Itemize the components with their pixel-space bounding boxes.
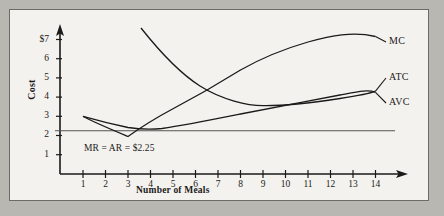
figure-panel: Cost Number of Meals $7 6 5 4 3 2 1 1 2 … <box>9 9 429 201</box>
x-tick-label-5: 5 <box>165 179 181 189</box>
y-tick-label-1: 1 <box>27 149 49 159</box>
x-tick-label-12: 12 <box>323 179 339 189</box>
page-background: Cost Number of Meals $7 6 5 4 3 2 1 1 2 … <box>0 0 444 216</box>
atc-curve <box>141 28 376 106</box>
x-axis <box>60 170 408 178</box>
x-tick-label-14: 14 <box>368 179 384 189</box>
atc-curve-label: ATC <box>389 71 409 82</box>
mc-leader-line <box>376 37 387 43</box>
curve-leader-lines <box>376 37 387 104</box>
avc-curve-label: AVC <box>389 96 410 107</box>
x-tick-label-4: 4 <box>143 179 159 189</box>
y-tick-label-7: $7 <box>27 34 49 44</box>
x-tick-label-11: 11 <box>300 179 316 189</box>
x-tick-label-8: 8 <box>233 179 249 189</box>
x-tick-label-3: 3 <box>120 179 136 189</box>
y-tick-label-6: 6 <box>27 53 49 63</box>
x-tick-label-10: 10 <box>278 179 294 189</box>
x-tick-label-13: 13 <box>345 179 361 189</box>
x-tick-label-7: 7 <box>210 179 226 189</box>
x-tick-label-2: 2 <box>98 179 114 189</box>
cost-curves-plot <box>10 10 430 202</box>
x-tick-label-6: 6 <box>188 179 204 189</box>
avc-leader-line <box>376 92 387 103</box>
y-tick-label-2: 2 <box>27 129 49 139</box>
avc-curve <box>83 91 376 129</box>
x-tick-label-9: 9 <box>255 179 271 189</box>
atc-leader-line <box>376 78 387 91</box>
y-tick-label-4: 4 <box>27 91 49 101</box>
y-tick-label-5: 5 <box>27 72 49 82</box>
y-tick-label-3: 3 <box>27 110 49 120</box>
y-axis <box>56 24 64 174</box>
y-axis-ticks <box>56 40 62 155</box>
x-tick-label-1: 1 <box>75 179 91 189</box>
mr-ar-annotation-label: MR = AR = $2.25 <box>84 143 155 153</box>
mc-curve-label: MC <box>389 35 405 46</box>
mc-curve <box>83 34 376 136</box>
